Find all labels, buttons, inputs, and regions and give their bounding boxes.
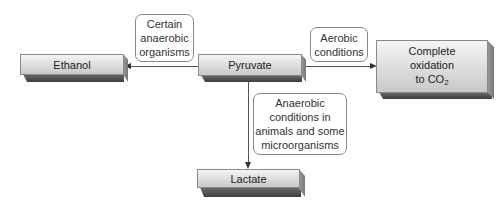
condition-lactate-line1: Anaerobic: [275, 96, 325, 110]
lactate-node: Lactate: [197, 169, 305, 198]
pyruvate-node: Pyruvate: [198, 54, 306, 83]
condition-ethanol-line2: anaerobic: [140, 31, 188, 45]
condition-oxidation-line2: conditions: [314, 45, 364, 59]
oxidation-line1: Complete: [408, 44, 455, 58]
oxidation-node: Complete oxidation to CO2: [376, 40, 494, 99]
connector-pyruvate-lactate: [248, 82, 249, 164]
connector-pyruvate-oxidation: [304, 66, 372, 67]
ethanol-node: Ethanol: [20, 54, 128, 83]
connector-pyruvate-ethanol: [128, 66, 198, 67]
oxidation-face: Complete oxidation to CO2: [376, 40, 488, 93]
condition-lactate: Anaerobic conditions in animals and some…: [253, 93, 347, 155]
ethanol-label: Ethanol: [20, 54, 124, 75]
condition-ethanol: Certain anaerobic organisms: [135, 14, 194, 62]
arrowhead-lactate: [245, 162, 251, 169]
condition-lactate-line4: microorganisms: [261, 138, 339, 152]
lactate-label: Lactate: [197, 169, 300, 188]
oxidation-subscript: 2: [444, 78, 448, 87]
condition-oxidation: Aerobic conditions: [310, 27, 368, 62]
oxidation-line3: to CO2: [415, 72, 448, 90]
condition-lactate-line2: conditions in: [269, 110, 330, 124]
oxidation-line2: oxidation: [410, 58, 454, 72]
condition-ethanol-line3: organisms: [139, 45, 190, 59]
oxidation-line3-text: to CO: [415, 73, 444, 85]
condition-ethanol-line1: Certain: [147, 17, 182, 31]
pyruvate-label: Pyruvate: [198, 54, 302, 76]
condition-oxidation-line1: Aerobic: [320, 31, 357, 45]
condition-lactate-line3: animals and some: [255, 124, 344, 138]
